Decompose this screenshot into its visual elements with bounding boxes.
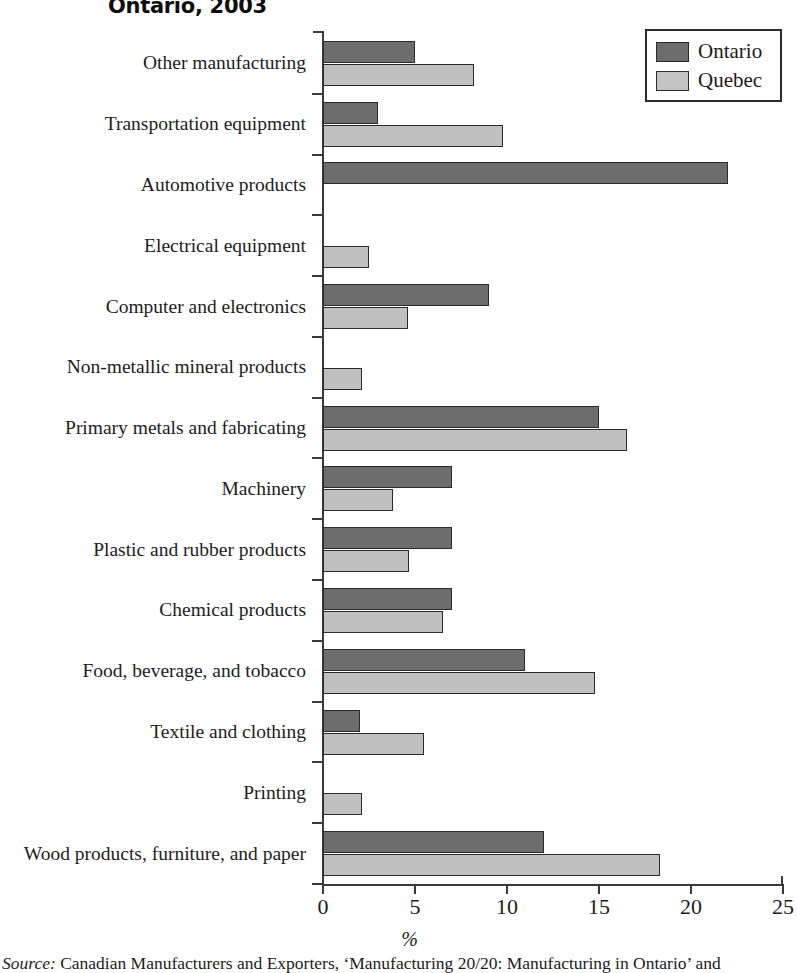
bar-quebec (323, 550, 409, 572)
category-label: Plastic and rubber products (0, 540, 306, 560)
bar-ontario (323, 284, 489, 306)
bar-quebec (323, 793, 362, 815)
bar-quebec (323, 672, 595, 694)
chart-category-row: Textile and clothing (322, 702, 782, 763)
chart-category-row: Chemical products (322, 580, 782, 641)
category-label: Food, beverage, and tobacco (0, 661, 306, 681)
x-axis-tick-label: 10 (496, 896, 518, 918)
x-axis-tick (782, 884, 784, 894)
x-axis-tick (414, 884, 416, 894)
category-label: Textile and clothing (0, 722, 306, 742)
x-axis-tick (506, 884, 508, 894)
bar-ontario (323, 406, 599, 428)
bar-ontario (323, 466, 452, 488)
bar-ontario (323, 649, 525, 671)
category-label: Automotive products (0, 175, 306, 195)
category-label: Transportation equipment (0, 114, 306, 134)
category-label: Other manufacturing (0, 53, 306, 73)
chart-category-row: Transportation equipment (322, 94, 782, 155)
x-axis-tick-label: 15 (588, 896, 610, 918)
x-axis-line (322, 884, 783, 886)
bar-quebec (323, 246, 369, 268)
y-axis-tick (312, 336, 322, 338)
bar-quebec (323, 307, 408, 329)
bar-quebec (323, 368, 362, 390)
category-label: Chemical products (0, 600, 306, 620)
x-axis-tick (690, 884, 692, 894)
x-axis-tick-label: 20 (680, 896, 702, 918)
category-label: Non-metallic mineral products (0, 357, 306, 377)
y-axis-tick (312, 883, 322, 885)
category-label: Electrical equipment (0, 236, 306, 256)
chart-category-row: Food, beverage, and tobacco (322, 641, 782, 702)
bar-ontario (323, 162, 728, 184)
bar-ontario (323, 831, 544, 853)
x-axis-tick (322, 884, 324, 894)
y-axis-tick (312, 154, 322, 156)
x-axis-tick (598, 884, 600, 894)
x-axis-tick-label: 5 (410, 896, 421, 918)
chart-category-row: Computer and electronics (322, 276, 782, 337)
chart-category-row: Electrical equipment (322, 215, 782, 276)
y-axis-top-cap (313, 31, 322, 33)
bar-quebec (323, 125, 503, 147)
x-axis-tick-label: 25 (772, 896, 794, 918)
x-axis-title: % (0, 928, 797, 951)
y-axis-tick (312, 275, 322, 277)
category-label: Computer and electronics (0, 297, 306, 317)
chart-category-row: Wood products, furniture, and paper (322, 823, 782, 884)
source-text: Canadian Manufacturers and Exporters, ‘M… (60, 953, 721, 973)
chart-category-row: Non-metallic mineral products (322, 337, 782, 398)
category-label: Machinery (0, 479, 306, 499)
bar-ontario (323, 588, 452, 610)
chart-category-row: Primary metals and fabricating (322, 398, 782, 459)
page-title: Ontario, 2003 (108, 0, 267, 18)
y-axis-tick (312, 518, 322, 520)
y-axis-tick (312, 701, 322, 703)
bar-quebec (323, 429, 627, 451)
y-axis-tick (312, 214, 322, 216)
category-label: Printing (0, 783, 306, 803)
chart-category-row: Plastic and rubber products (322, 519, 782, 580)
category-label: Wood products, furniture, and paper (0, 844, 306, 864)
bar-quebec (323, 854, 660, 876)
category-label: Primary metals and fabricating (0, 418, 306, 438)
x-axis-tick-label: 0 (318, 896, 329, 918)
bar-quebec (323, 733, 424, 755)
y-axis-tick (312, 579, 322, 581)
x-axis-title-text: % (401, 928, 418, 950)
chart-category-row: Automotive products (322, 155, 782, 216)
bar-ontario (323, 710, 360, 732)
bar-ontario (323, 102, 378, 124)
y-axis-tick (312, 93, 322, 95)
source-note: Source: Canadian Manufacturers and Expor… (2, 953, 797, 973)
y-axis-tick (312, 761, 322, 763)
bar-quebec (323, 64, 474, 86)
plot-area: Other manufacturingTransportation equipm… (322, 33, 782, 884)
y-axis-tick (312, 822, 322, 824)
bar-quebec (323, 611, 443, 633)
y-axis-tick (312, 397, 322, 399)
source-label: Source: (2, 953, 56, 973)
y-axis-tick (312, 457, 322, 459)
chart-category-row: Machinery (322, 459, 782, 520)
bar-ontario (323, 527, 452, 549)
chart-category-row: Printing (322, 762, 782, 823)
chart-category-row: Other manufacturing (322, 33, 782, 94)
bar-ontario (323, 41, 415, 63)
bar-quebec (323, 489, 393, 511)
y-axis-tick (312, 640, 322, 642)
